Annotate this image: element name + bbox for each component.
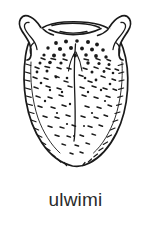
tongue-illustration [0, 0, 151, 185]
figure-caption: ulwimi [0, 188, 151, 212]
tongue-drawing-svg [0, 0, 151, 185]
figure-card: ulwimi [0, 0, 151, 244]
